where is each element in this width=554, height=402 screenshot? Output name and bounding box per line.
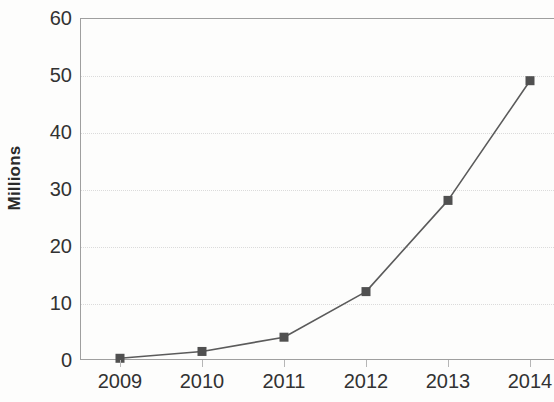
x-axis-tick-label: 2013 (403, 371, 493, 391)
data-point-marker (280, 333, 289, 342)
data-point-marker (198, 347, 207, 356)
x-axis-tick-label: 2010 (157, 371, 247, 391)
x-axis-tick-label: 2011 (239, 371, 329, 391)
x-axis-tick-label: 2012 (321, 371, 411, 391)
x-axis-tick-mark (366, 360, 367, 367)
x-axis-tick-label: 2009 (75, 371, 165, 391)
x-axis-tick-label: 2014 (485, 371, 554, 391)
x-axis-tick-mark (202, 360, 203, 367)
series-line (120, 81, 530, 359)
data-series-layer (0, 0, 554, 402)
x-axis-tick-mark (448, 360, 449, 367)
line-chart: Millions 0102030405060 20092010201120122… (0, 0, 554, 402)
x-axis-tick-mark (120, 360, 121, 367)
x-axis-tick-mark (284, 360, 285, 367)
x-axis-tick-mark (530, 360, 531, 367)
data-point-marker (362, 287, 371, 296)
data-point-marker (526, 76, 535, 85)
data-point-marker (444, 196, 453, 205)
series-markers (116, 76, 535, 363)
